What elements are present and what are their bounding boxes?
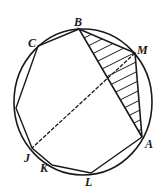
- label-c: C: [28, 36, 37, 50]
- label-b: B: [73, 15, 82, 29]
- geometry-diagram: B M A L K J C: [0, 0, 167, 196]
- label-k: K: [39, 161, 49, 175]
- label-j: J: [23, 151, 31, 165]
- label-a: A: [144, 137, 153, 151]
- label-l: L: [84, 175, 92, 189]
- label-m: M: [136, 43, 148, 57]
- dashed-segment-mj: [32, 53, 135, 148]
